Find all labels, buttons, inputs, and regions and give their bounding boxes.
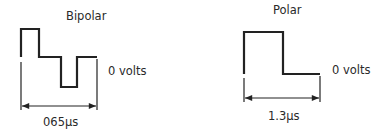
bipolar-waveform xyxy=(21,29,97,87)
bipolar-zero-volts-label: 0 volts xyxy=(108,66,147,78)
polar-diagram xyxy=(244,32,320,102)
polar-title: Polar xyxy=(273,5,302,17)
polar-waveform xyxy=(244,32,320,74)
bipolar-diagram xyxy=(21,29,97,110)
polar-zero-volts-label: 0 volts xyxy=(332,65,371,77)
polar-duration-label: 1.3μs xyxy=(268,111,300,123)
bipolar-duration-label: 065μs xyxy=(43,117,78,129)
bipolar-title: Bipolar xyxy=(66,11,106,23)
